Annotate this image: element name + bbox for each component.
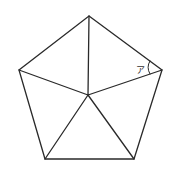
segment-center-top xyxy=(88,16,89,95)
angle-label: ア xyxy=(136,65,145,75)
pentagon-diagram: ア xyxy=(0,0,173,171)
segment-center-bottom-left xyxy=(45,95,88,159)
segment-center-left xyxy=(19,70,88,95)
pentagon-outline xyxy=(19,16,162,159)
segment-center-right xyxy=(88,70,162,95)
angle-arc xyxy=(148,61,150,74)
segment-center-bottom-right xyxy=(88,95,134,159)
